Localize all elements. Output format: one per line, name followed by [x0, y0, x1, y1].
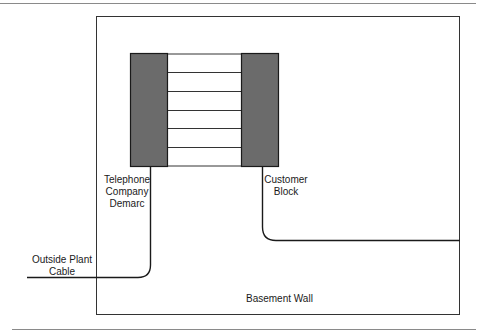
outside-plant-label: Outside Plant Cable [28, 254, 96, 278]
customer-block-label-line1: Customer [262, 174, 310, 186]
basement-wall-label: Basement Wall [246, 293, 313, 305]
cross-connect-wires [168, 54, 241, 166]
outside-plant-label-line1: Outside Plant [28, 254, 96, 266]
telco-demarc-block [131, 54, 168, 167]
telco-demarc-label-line2: Company [99, 186, 155, 198]
customer-block-label-line2: Block [262, 186, 310, 198]
outside-plant-label-line2: Cable [28, 266, 96, 278]
telco-demarc-label-line1: Telephone [99, 174, 155, 186]
telco-demarc-label: Telephone Company Demarc [99, 174, 155, 210]
customer-block [242, 54, 279, 167]
customer-block-label: Customer Block [262, 174, 310, 198]
diagram-canvas [0, 0, 486, 334]
telco-demarc-label-line3: Demarc [99, 198, 155, 210]
